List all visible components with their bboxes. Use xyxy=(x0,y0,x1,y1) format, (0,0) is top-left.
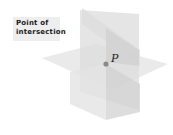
point-label: P xyxy=(111,53,118,64)
callout-line-2: intersection xyxy=(16,28,57,37)
vertical-plane-front-lower xyxy=(70,64,106,120)
intersecting-planes-figure: Point of intersection P xyxy=(0,0,173,135)
callout-line-1: Point of xyxy=(16,19,57,28)
callout-box: Point of intersection xyxy=(13,17,60,41)
intersection-point-marker xyxy=(103,61,108,66)
